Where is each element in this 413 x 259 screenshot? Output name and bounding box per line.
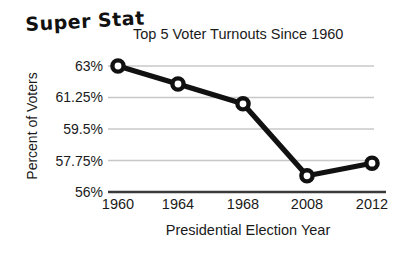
data-point-2012 xyxy=(366,158,377,169)
data-point-1964 xyxy=(172,78,183,89)
series-polyline xyxy=(118,66,372,176)
data-series-line xyxy=(118,66,372,176)
data-point-2008 xyxy=(301,170,312,181)
chart-container: Super Stat Top 5 Voter Turnouts Since 19… xyxy=(0,0,413,259)
plot-area xyxy=(0,0,413,259)
data-point-1960 xyxy=(112,60,123,71)
data-point-1968 xyxy=(237,98,248,109)
